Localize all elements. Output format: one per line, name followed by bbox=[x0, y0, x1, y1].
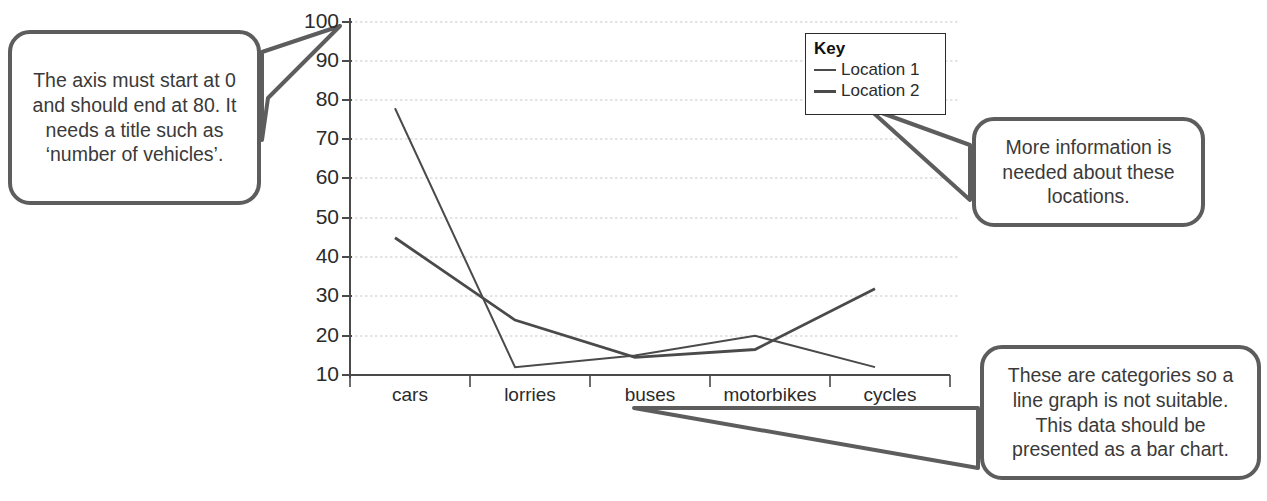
callout-categories-tail bbox=[634, 408, 978, 468]
legend-title: Key bbox=[814, 38, 945, 59]
legend-label-location-1: Location 1 bbox=[841, 60, 919, 80]
x-category-label-motorbikes: motorbikes bbox=[710, 384, 830, 406]
x-category-label-lorries: lorries bbox=[470, 384, 590, 406]
series-line-location-2 bbox=[395, 238, 875, 358]
annotated-line-graph-figure: 100 90 80 70 60 50 40 30 20 10 cars lorr… bbox=[0, 0, 1267, 501]
series-line-location-1 bbox=[395, 108, 875, 367]
callout-locations-tail bbox=[868, 108, 970, 200]
y-tick-label-20: 20 bbox=[283, 323, 339, 347]
x-category-label-cycles: cycles bbox=[830, 384, 950, 406]
x-category-label-cars: cars bbox=[350, 384, 470, 406]
legend-key-box: Key Location 1 Location 2 bbox=[805, 33, 946, 115]
y-tick-label-60: 60 bbox=[283, 165, 339, 189]
legend-label-location-2: Location 2 bbox=[841, 81, 919, 101]
callout-categories-advice: These are categories so a line graph is … bbox=[980, 345, 1261, 480]
x-category-label-buses: buses bbox=[590, 384, 710, 406]
y-tick-label-30: 30 bbox=[283, 283, 339, 307]
legend-line-swatch-location-1 bbox=[814, 69, 836, 71]
callout-axis-advice: The axis must start at 0 and should end … bbox=[8, 30, 261, 205]
y-tick-label-40: 40 bbox=[283, 244, 339, 268]
legend-line-swatch-location-2 bbox=[814, 90, 836, 93]
y-tick-label-100: 100 bbox=[283, 9, 339, 33]
legend-entry-location-2: Location 2 bbox=[814, 81, 945, 101]
y-tick-label-90: 90 bbox=[283, 48, 339, 72]
y-tick-label-80: 80 bbox=[283, 87, 339, 111]
y-tick-label-50: 50 bbox=[283, 205, 339, 229]
y-tick-label-70: 70 bbox=[283, 126, 339, 150]
callout-locations-advice: More information is needed about these l… bbox=[972, 117, 1205, 227]
callout-axis-tail bbox=[262, 26, 340, 140]
legend-entry-location-1: Location 1 bbox=[814, 60, 945, 80]
y-tick-label-10: 10 bbox=[283, 362, 339, 386]
